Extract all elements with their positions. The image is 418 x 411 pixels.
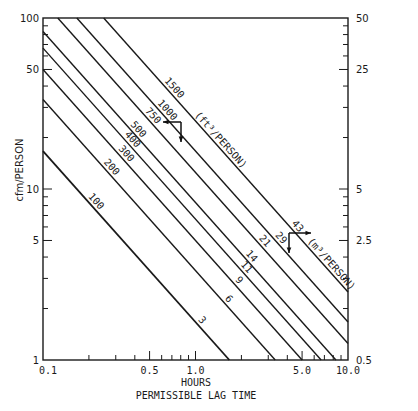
x-tick-label: 5.0 [293,365,311,376]
series-label-ft3: 100 [86,191,106,212]
y-tick-label: 50 [26,64,39,75]
x-tick-label: 10.0 [336,365,360,376]
axis-ticks [43,26,348,360]
x-axis-sublabel: PERMISSIBLE LAG TIME [136,390,256,401]
series-label-m3: 29 [273,229,289,245]
units-label-ft3: (ft³/PERSON) [193,109,249,170]
y2-tick-label: 50 [356,13,369,24]
x-tick-label: 0.5 [141,365,159,376]
y-tick-label: 5 [33,235,39,246]
volume-line [43,151,229,360]
volume-lines [43,18,348,360]
x-tick-label: 0.1 [39,365,57,376]
y2-tick-label: 2.5 [356,235,372,246]
arrow-right-icon-head [305,231,311,236]
x-axis-label: HOURS [181,377,211,388]
volume-line [43,100,275,360]
lag-time-chart: 0.10.51.05.010.01510501000.52.552550 100… [0,0,418,411]
volume-line [104,18,348,292]
arrow-down-icon-head [287,247,292,253]
arrow-down-icon-head [179,136,184,142]
plot-border [43,18,348,360]
x-tick-label: 1.0 [186,365,204,376]
series-label-ft3: 200 [102,157,122,178]
y-tick-label: 100 [20,13,39,24]
plot-frame [43,18,348,360]
series-label-m3: 43 [290,218,306,234]
arrow-left-icon-head [163,120,169,125]
y-tick-label: 10 [26,184,39,195]
y2-tick-label: 25 [356,64,369,75]
y2-tick-label: 0.5 [356,355,372,366]
volume-line [58,18,348,343]
y2-tick-label: 5 [356,184,362,195]
y-axis-label: cfm/PERSON [14,138,25,201]
volume-line [43,32,336,360]
y-tick-label: 1 [33,355,39,366]
